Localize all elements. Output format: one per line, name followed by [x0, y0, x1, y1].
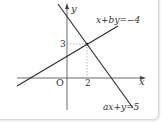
x-value-label: 2 [85, 78, 91, 88]
y-value-label: 3 [60, 39, 66, 49]
equation-line-2: ax+y=5 [103, 102, 140, 112]
origin-label: O [56, 77, 64, 88]
equation-line-1: x+by=−4 [96, 15, 141, 25]
line-x-plus-by [17, 26, 118, 86]
y-axis-label: y [70, 3, 77, 14]
intersection-point [86, 43, 89, 46]
x-axis-label: x [139, 76, 145, 87]
coordinate-graph: y x O 3 2 x+by=−4 ax+y=5 [0, 0, 162, 124]
y-axis-arrow-icon [65, 3, 69, 9]
